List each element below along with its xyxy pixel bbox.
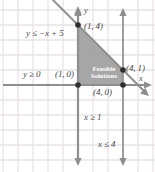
arrow-down-x4 bbox=[119, 158, 126, 166]
feasible-region-caption: Feasible Solutions bbox=[85, 65, 123, 80]
vertex-label-4-0: (4, 0) bbox=[93, 88, 112, 97]
feasible-caption-line2: Solutions bbox=[85, 72, 123, 79]
vertex-label-4-1: (4, 1) bbox=[126, 64, 145, 73]
vertex-point-1-0 bbox=[75, 82, 81, 88]
vertex-point-1-4 bbox=[75, 22, 81, 28]
constraint-label-x-geq-1: x ≥ 1 bbox=[84, 113, 101, 122]
feasible-caption-line1: Feasible bbox=[85, 65, 123, 72]
y-axis-label: y bbox=[84, 6, 88, 15]
vertex-label-1-4: (1, 4) bbox=[84, 22, 103, 31]
constraint-label-x-leq-4: x ≤ 4 bbox=[98, 140, 115, 149]
constraint-label-y-geq-0: y ≥ 0 bbox=[23, 70, 40, 79]
feasible-region-figure: y x y ≤ −x + 5 y ≥ 0 x ≥ 1 x ≤ 4 (1, 4) … bbox=[0, 0, 155, 172]
arrow-x-axis bbox=[144, 81, 152, 88]
arrow-up-x4 bbox=[119, 8, 126, 16]
vertex-point-4-0 bbox=[120, 82, 126, 88]
graph-canvas bbox=[0, 0, 155, 172]
constraint-label-diagonal: y ≤ −x + 5 bbox=[26, 29, 64, 38]
vertex-label-1-0: (1, 0) bbox=[55, 70, 74, 79]
x-axis-label: x bbox=[139, 74, 143, 83]
